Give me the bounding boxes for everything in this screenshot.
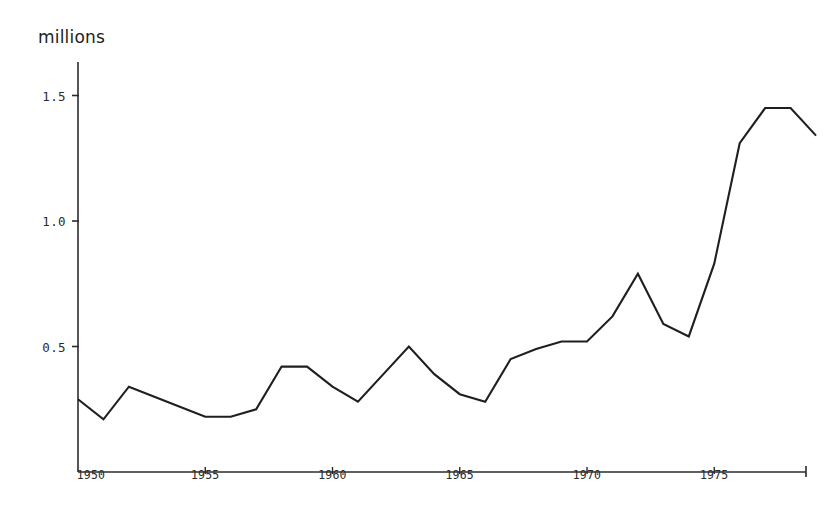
x-axis-tick-label: 1950 [77,468,106,482]
chart-figure: millions 1.51.00.5 195019551960196519701… [0,0,829,520]
x-axis-tick-label: 1960 [318,468,347,482]
y-axis-tick-label: 1.0 [42,214,66,229]
y-axis-tick-label: 1.5 [42,88,66,103]
data-series-line [78,108,816,419]
y-axis-tick-label: 0.5 [42,339,66,354]
x-axis-tick-label: 1955 [191,468,220,482]
x-axis-tick-label: 1965 [446,468,475,482]
chart-plot-area [0,0,829,520]
x-axis-tick-label: 1970 [573,468,602,482]
axis-lines [78,62,806,477]
x-axis-tick-label: 1975 [700,468,729,482]
